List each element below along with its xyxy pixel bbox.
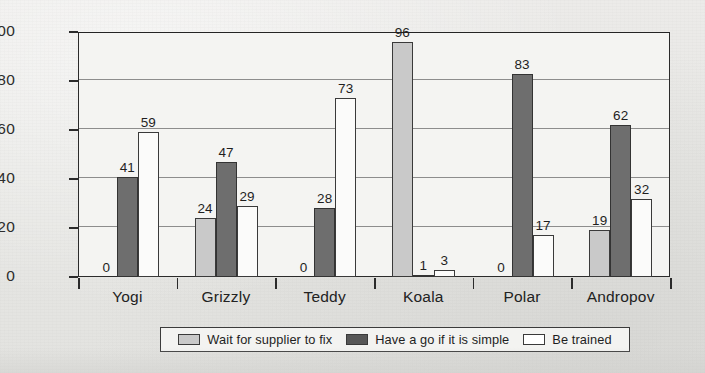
- bars-layer: 0415924472902873961308317196232: [78, 32, 670, 277]
- y-tick-label-40: 40: [0, 169, 15, 187]
- legend-item-series0[interactable]: Wait for supplier to fix: [171, 332, 339, 347]
- x-tick-mark-2: [275, 278, 277, 289]
- chart-legend: Wait for supplier to fixHave a go if it …: [160, 327, 630, 352]
- y-tick-mark-20: [69, 227, 78, 229]
- bar-grizzly-series1: [216, 162, 237, 277]
- y-tick-label-20: 20: [0, 218, 15, 236]
- bar-yogi-series2: [138, 132, 159, 277]
- x-tick-mark-1: [177, 278, 179, 289]
- x-tick-mark-end: [670, 278, 672, 289]
- y-tick-mark-60: [69, 129, 78, 131]
- bar-group-koala: [392, 32, 455, 277]
- y-tick-mark-100: [69, 31, 78, 33]
- x-category-label-koala: Koala: [374, 288, 473, 306]
- y-tick-label-0: 0: [0, 267, 15, 285]
- x-category-label-yogi: Yogi: [78, 288, 177, 306]
- y-tick-label-100: 100: [0, 22, 15, 40]
- legend-label-series1: Have a go if it is simple: [375, 332, 509, 347]
- y-tick-mark-0: [69, 276, 78, 278]
- legend-item-series1[interactable]: Have a go if it is simple: [339, 332, 516, 347]
- y-tick-mark-80: [69, 80, 78, 82]
- chart-page: 020406080100 041592447290287396130831719…: [0, 0, 705, 373]
- x-category-label-polar: Polar: [473, 288, 572, 306]
- bar-koala-series1: [413, 275, 434, 277]
- x-category-label-andropov: Andropov: [571, 288, 670, 306]
- x-tick-mark-4: [473, 278, 475, 289]
- legend-swatch-series1: [346, 334, 368, 345]
- bar-yogi-series1: [117, 177, 138, 277]
- bar-group-andropov: [589, 32, 652, 277]
- bar-grizzly-series2: [237, 206, 258, 277]
- bar-andropov-series1: [610, 125, 631, 277]
- x-tick-mark-5: [571, 278, 573, 289]
- bar-andropov-series2: [631, 199, 652, 277]
- legend-label-series2: Be trained: [552, 332, 611, 347]
- bar-group-yogi: [96, 32, 159, 277]
- bar-teddy-series1: [314, 208, 335, 277]
- legend-swatch-series2: [523, 334, 545, 345]
- x-category-label-teddy: Teddy: [275, 288, 374, 306]
- bar-koala-series2: [434, 270, 455, 277]
- y-tick-label-60: 60: [0, 120, 15, 138]
- bar-group-grizzly: [195, 32, 258, 277]
- y-tick-label-80: 80: [0, 71, 15, 89]
- bar-andropov-series0: [589, 230, 610, 277]
- legend-item-series2[interactable]: Be trained: [516, 332, 618, 347]
- legend-label-series0: Wait for supplier to fix: [207, 332, 332, 347]
- x-category-label-grizzly: Grizzly: [177, 288, 276, 306]
- bar-koala-series0: [392, 42, 413, 277]
- x-tick-mark-0: [78, 278, 80, 289]
- bar-group-teddy: [293, 32, 356, 277]
- bar-grizzly-series0: [195, 218, 216, 277]
- legend-swatch-series0: [178, 334, 200, 345]
- bar-polar-series1: [512, 74, 533, 277]
- y-tick-mark-40: [69, 178, 78, 180]
- x-tick-mark-3: [374, 278, 376, 289]
- bar-group-polar: [491, 32, 554, 277]
- bar-polar-series2: [533, 235, 554, 277]
- bar-teddy-series2: [335, 98, 356, 277]
